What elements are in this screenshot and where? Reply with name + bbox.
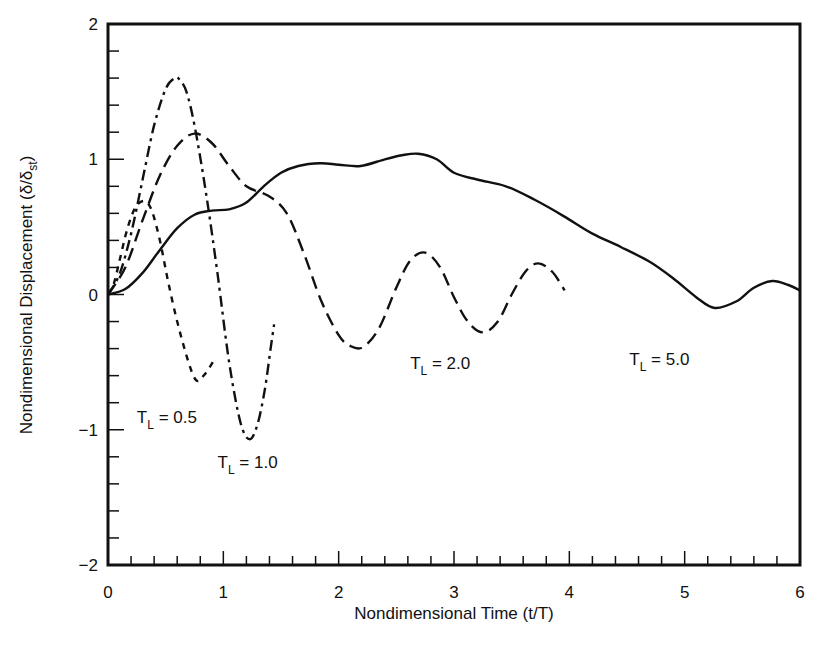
series-labels: TL = 0.5TL = 1.0TL = 2.0TL = 5.0	[137, 350, 690, 477]
x-tick-label: 2	[334, 583, 343, 602]
series-line-10	[108, 77, 274, 439]
x-tick-labels: 0123456	[103, 583, 804, 602]
y-tick-labels: −2−1012	[79, 15, 98, 575]
x-axis-title: Nondimensional Time (t/T)	[354, 604, 553, 623]
y-tick-label: −1	[79, 421, 98, 440]
series-label: TL = 2.0	[410, 354, 470, 378]
y-tick-label: 2	[89, 15, 98, 34]
x-tick-label: 3	[449, 583, 458, 602]
chart: 0123456 −2−1012 TL = 0.5TL = 1.0TL = 2.0…	[0, 0, 827, 667]
x-tick-label: 6	[795, 583, 804, 602]
y-axis-title: Nondimensional Displacement (δ/δst)	[17, 156, 40, 435]
series-layer	[108, 77, 800, 439]
y-tick-label: 0	[89, 286, 98, 305]
y-tick-label: 1	[89, 150, 98, 169]
x-tick-label: 4	[565, 583, 574, 602]
x-tick-label: 5	[680, 583, 689, 602]
x-tick-label: 1	[219, 583, 228, 602]
series-line-20	[108, 134, 565, 349]
y-axis-title-close: )	[17, 156, 36, 162]
series-label: TL = 0.5	[137, 408, 197, 432]
series-label: TL = 5.0	[629, 350, 689, 374]
series-label: TL = 1.0	[218, 453, 278, 477]
x-tick-label: 0	[103, 583, 112, 602]
y-tick-label: −2	[79, 556, 98, 575]
y-axis-title-main: Nondimensional Displacement (δ/δ	[17, 171, 36, 435]
